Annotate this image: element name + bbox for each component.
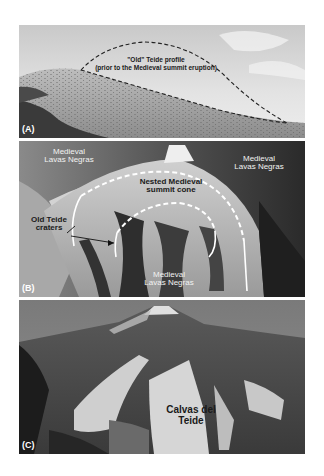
calvas-del-teide-label: Calvas del Teide (156, 405, 226, 426)
panel-tag-b: (B) (22, 283, 35, 293)
label-line: Calvas del (156, 405, 226, 416)
label-line: Lavas Negras (129, 279, 209, 287)
label-line: craters (19, 224, 79, 232)
label-line: Teide (156, 416, 226, 427)
panel-a-landscape (19, 25, 305, 138)
panel-b-photo: Medieval Lavas Negras Medieval Lavas Neg… (19, 141, 305, 297)
bottom-lavas-label: Medieval Lavas Negras (129, 271, 209, 288)
label-line: summit cone (121, 186, 221, 194)
old-teide-profile-label: "Old" Teide profile (prior to the Mediev… (95, 56, 218, 73)
panel-c-mountain (19, 300, 305, 454)
upper-left-lavas-label: Medieval Lavas Negras (34, 148, 104, 165)
old-teide-craters-label: Old Teide craters (19, 216, 79, 233)
panel-tag-c: (C) (22, 440, 35, 450)
nested-cone-label: Nested Medieval summit cone (121, 178, 221, 195)
label-line: Lavas Negras (224, 163, 294, 171)
label-line: Lavas Negras (34, 156, 104, 164)
panel-a-photo: "Old" Teide profile (prior to the Mediev… (19, 25, 305, 138)
panel-c-photo: Calvas del Teide (C) (19, 300, 305, 454)
label-line: (prior to the Medieval summit eruption) (95, 64, 218, 72)
upper-right-lavas-label: Medieval Lavas Negras (224, 155, 294, 172)
panel-tag-a: (A) (22, 124, 35, 134)
